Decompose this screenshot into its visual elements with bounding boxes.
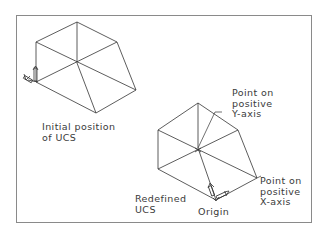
label-initial-position: Initial position of UCS <box>42 122 115 143</box>
label-redefined-line1: Redefined <box>135 194 186 205</box>
label-initial-line2: of UCS <box>42 133 115 144</box>
label-redefined-line2: UCS <box>135 205 186 216</box>
label-point-y-line3: Y-axis <box>232 109 274 120</box>
label-redefined-ucs: Redefined UCS <box>135 194 186 215</box>
label-origin-text: Origin <box>198 207 229 218</box>
label-initial-line1: Initial position <box>42 122 115 133</box>
initial-wedge <box>36 22 136 113</box>
label-point-y: Point on positive Y-axis <box>232 88 274 120</box>
label-point-y-line1: Point on <box>232 88 274 99</box>
label-point-x-line3: X-axis <box>260 197 302 208</box>
label-point-x-line1: Point on <box>260 176 302 187</box>
label-origin: Origin <box>198 207 229 218</box>
label-point-x: Point on positive X-axis <box>260 176 302 208</box>
redefined-ucs-icon <box>208 183 229 201</box>
